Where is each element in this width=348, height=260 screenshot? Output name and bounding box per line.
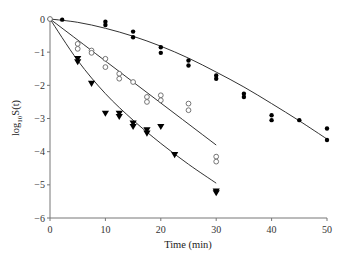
y-tick-label: −6 <box>34 213 45 224</box>
open-circle-point <box>75 46 80 51</box>
open-circle-point <box>158 93 163 98</box>
y-tick-label: −1 <box>34 47 45 58</box>
open-circle-point <box>117 71 122 76</box>
filled-circle-point <box>159 51 163 55</box>
filled-circle-point <box>131 35 135 39</box>
filled-circle-point <box>214 77 218 81</box>
filled-triangle-point <box>213 190 220 196</box>
open-circle-point <box>103 65 108 70</box>
open-circle-point <box>75 41 80 46</box>
filled-circle-point <box>159 45 163 49</box>
y-tick-label: −5 <box>34 179 45 190</box>
filled-triangle-point <box>130 124 137 130</box>
open-circle-point <box>145 100 150 105</box>
open-circle-point <box>186 101 191 106</box>
open-circle-point <box>214 159 219 164</box>
y-tick-label: −2 <box>34 80 45 91</box>
open-circle-point <box>89 50 94 55</box>
filled-circle-point <box>325 138 329 142</box>
filled-circle-point <box>131 29 135 33</box>
y-tick-label: 0 <box>40 14 45 25</box>
filled-triangle-point <box>116 114 123 120</box>
filled-circle-point <box>297 118 301 122</box>
filled-triangle-point <box>157 124 164 130</box>
open-circle-point <box>158 98 163 103</box>
x-tick-label: 50 <box>322 224 332 235</box>
filled-circle-point <box>269 118 273 122</box>
x-tick-label: 0 <box>48 224 53 235</box>
x-tick-label: 20 <box>156 224 166 235</box>
filled-triangle-point <box>102 111 109 117</box>
y-axis-title: log10S(t) <box>10 99 24 136</box>
filled-circle-point <box>60 17 64 21</box>
filled-circle-point <box>242 95 246 99</box>
filled-circle-point <box>103 23 107 27</box>
filled-circle-point <box>325 126 329 130</box>
filled-triangle-point <box>171 152 178 158</box>
y-tick-label: −4 <box>34 146 45 157</box>
open-circle-point <box>145 95 150 100</box>
data-points <box>48 17 330 197</box>
x-tick-label: 10 <box>100 224 110 235</box>
open-circle-point <box>186 108 191 113</box>
x-tick-label: 40 <box>267 224 277 235</box>
filled-circle-point <box>186 63 190 67</box>
fit-curve-0 <box>50 19 327 139</box>
filled-triangle-point <box>88 81 95 87</box>
open-circle-point <box>48 17 53 22</box>
filled-circle-point <box>186 58 190 62</box>
chart-canvas: 0−1−2−3−4−5−601020304050 Time (min) log1… <box>0 0 348 260</box>
open-circle-point <box>131 80 136 85</box>
open-circle-point <box>214 154 219 159</box>
y-tick-label: −3 <box>34 113 45 124</box>
x-axis-title: Time (min) <box>164 239 212 251</box>
open-circle-point <box>117 76 122 81</box>
filled-circle-point <box>269 113 273 117</box>
open-circle-point <box>103 56 108 61</box>
x-tick-label: 30 <box>211 224 221 235</box>
